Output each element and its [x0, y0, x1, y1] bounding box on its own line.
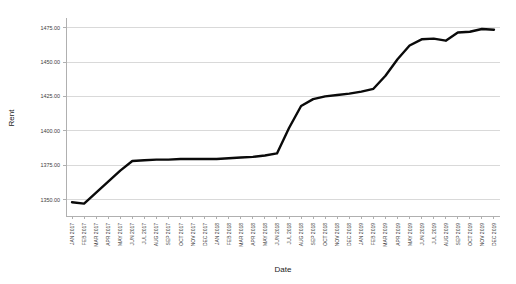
x-tick-label: MAY 2018	[262, 223, 268, 246]
x-tick-label: MAY 2019	[407, 223, 413, 246]
x-tick-label: JUL 2019	[431, 223, 437, 244]
x-tick-label: MAR 2019	[382, 223, 388, 247]
x-tick-label: APR 2018	[250, 223, 256, 246]
x-tick-label: FEB 2017	[81, 223, 87, 245]
x-tick-label: APR 2019	[395, 223, 401, 246]
x-tick-label: NOV 2018	[334, 223, 340, 247]
y-tick-label: 1350.00	[41, 197, 61, 203]
y-tick-label: 1450.00	[41, 59, 61, 65]
x-tick-label: MAR 2017	[93, 223, 99, 247]
x-tick-label: SEP 2018	[310, 223, 316, 246]
y-tick-label: 1375.00	[41, 162, 61, 168]
y-tick-labels-group: 1350.001375.001400.001425.001450.001475.…	[41, 25, 67, 203]
y-tick-label: 1400.00	[41, 128, 61, 134]
x-tick-label: JUN 2018	[274, 223, 280, 245]
x-tick-label: JAN 2017	[69, 223, 75, 245]
x-tick-label: AUG 2017	[153, 223, 159, 247]
x-tick-label: JUL 2018	[286, 223, 292, 244]
x-tick-label: DEC 2019	[491, 223, 497, 246]
x-tick-label: SEP 2019	[455, 223, 461, 246]
gridlines-group	[66, 28, 500, 200]
x-tick-label: NOV 2019	[479, 223, 485, 247]
x-tick-label: OCT 2019	[467, 223, 473, 246]
x-tick-label: JUL 2017	[141, 223, 147, 244]
x-tick-label: DEC 2018	[346, 223, 352, 246]
x-tick-label: NOV 2017	[190, 223, 196, 247]
x-tick-label: FEB 2019	[370, 223, 376, 245]
x-tick-label: AUG 2019	[443, 223, 449, 247]
x-tick-label: SEP 2017	[165, 223, 171, 246]
x-tick-label: FEB 2018	[226, 223, 232, 245]
x-tick-label: MAR 2018	[238, 223, 244, 247]
x-tick-label: JUN 2017	[129, 223, 135, 245]
x-axis-title: Date	[275, 265, 292, 274]
chart-canvas: 1350.001375.001400.001425.001450.001475.…	[0, 0, 516, 284]
x-tick-label: DEC 2017	[202, 223, 208, 246]
data-series-group	[72, 29, 494, 204]
y-tick-label: 1475.00	[41, 25, 61, 31]
x-tick-label: APR 2017	[105, 223, 111, 246]
x-tick-labels-group: JAN 2017FEB 2017MAR 2017APR 2017MAY 2017…	[69, 216, 497, 247]
x-tick-label: JUN 2019	[419, 223, 425, 245]
rent-series-line	[72, 29, 494, 204]
x-tick-label: OCT 2018	[322, 223, 328, 246]
x-tick-label: OCT 2017	[178, 223, 184, 246]
x-tick-label: JAN 2018	[214, 223, 220, 245]
y-tick-label: 1425.00	[41, 93, 61, 99]
x-tick-label: AUG 2018	[298, 223, 304, 247]
rent-over-time-line-chart: 1350.001375.001400.001425.001450.001475.…	[0, 0, 516, 284]
x-tick-label: MAY 2017	[117, 223, 123, 246]
axis-lines-group	[66, 18, 500, 216]
y-axis-title: Rent	[7, 109, 16, 127]
x-tick-label: JAN 2019	[358, 223, 364, 245]
